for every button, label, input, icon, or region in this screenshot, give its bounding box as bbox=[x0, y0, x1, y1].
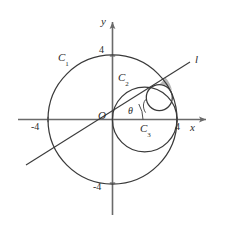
tick-label-y-neg4: -4 bbox=[93, 182, 101, 192]
x-axis-label: x bbox=[190, 122, 195, 133]
curve-label-c1: C1 bbox=[58, 52, 69, 66]
tick-label-y-pos4: 4 bbox=[99, 45, 104, 55]
tick-label-x-neg4: -4 bbox=[31, 122, 39, 132]
curve-label-c3: C3 bbox=[140, 123, 151, 137]
curve-label-c1-sub: 1 bbox=[65, 60, 69, 68]
curve-label-c2: C2 bbox=[118, 72, 129, 86]
line-l bbox=[26, 62, 190, 165]
origin-label: O bbox=[98, 110, 106, 121]
line-label-l: l bbox=[195, 54, 198, 65]
angle-arc-theta bbox=[139, 104, 143, 120]
curve-label-c3-sub: 3 bbox=[147, 131, 151, 139]
tick-label-x-pos4: 4 bbox=[175, 122, 180, 132]
angle-label-theta: θ bbox=[128, 106, 133, 116]
figure-root: y x O 4 -4 -4 4 C1 C2 C3 l θ bbox=[0, 0, 225, 230]
curve-label-c2-sub: 2 bbox=[125, 80, 129, 88]
y-axis-label: y bbox=[101, 16, 106, 27]
geometry-canvas bbox=[0, 0, 225, 230]
